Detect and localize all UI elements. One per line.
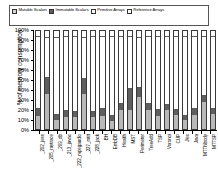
x-tick-label: Java	[194, 134, 199, 143]
x-tick-label: Voronoi	[167, 134, 172, 149]
bar-segment	[100, 37, 104, 109]
x-tick-label: _202_jess	[40, 134, 45, 154]
bar-segment	[137, 38, 141, 88]
x-tick-label: BH	[104, 134, 109, 140]
x-tick-label: Perimeter	[140, 134, 145, 153]
bar	[173, 30, 179, 130]
legend-item-reference-arrays: Reference Arrays	[127, 8, 164, 14]
bar	[164, 30, 170, 130]
bar-segment	[82, 79, 86, 94]
legend-label: Mutable Scalars	[19, 8, 48, 12]
bar-segment	[119, 37, 123, 104]
bar	[145, 30, 151, 130]
x-tick-label: _213_javac	[67, 134, 72, 157]
x-tick-label: CUP	[176, 134, 181, 143]
bar-segment	[202, 102, 206, 129]
bar-segment	[211, 114, 215, 129]
bar-segment	[165, 37, 169, 105]
bar-segment	[146, 110, 150, 129]
y-tick-label: 60%	[18, 67, 29, 73]
x-tick-label: TreeAdd	[149, 134, 154, 151]
bar-segment	[146, 37, 150, 104]
bar-segment	[54, 38, 58, 115]
bar	[63, 30, 69, 130]
bar-segment	[110, 121, 114, 129]
bar-segment	[156, 37, 160, 110]
legend-label: Primitive Arrays	[97, 8, 125, 12]
bar-segment	[183, 120, 187, 129]
bar-segment	[110, 37, 114, 116]
bar	[81, 30, 87, 130]
legend-label: Immutable Scalars	[56, 8, 89, 12]
bar-segment	[45, 94, 49, 129]
bar-segment	[36, 109, 40, 116]
bar-segment	[183, 37, 187, 116]
bar-segment	[64, 37, 68, 111]
bar-segment	[137, 31, 141, 38]
bar-segment	[36, 37, 40, 109]
bar-segment	[45, 31, 49, 38]
bar-segment	[128, 110, 132, 129]
x-tick-label: MTTSP	[212, 134, 217, 149]
bar	[127, 30, 133, 130]
bar-segment	[174, 115, 178, 129]
bar	[182, 30, 188, 130]
legend-swatch-icon	[49, 9, 54, 14]
legend-swatch-icon	[12, 9, 17, 14]
legend-swatch-icon	[91, 9, 96, 14]
bar-segment	[202, 37, 206, 97]
bar-segment	[119, 110, 123, 129]
bar	[90, 30, 96, 130]
legend-item-immutable-scalars: Immutable Scalars	[49, 8, 89, 14]
bar	[35, 30, 41, 130]
y-tick-label: 40%	[18, 87, 29, 93]
bar-segment	[54, 31, 58, 38]
bar-segment	[192, 115, 196, 129]
x-tick-label: MTTNbody	[203, 134, 208, 156]
bar-segment	[192, 37, 196, 109]
bar	[136, 30, 142, 130]
y-tick-label: 100%	[15, 27, 29, 33]
y-tick-label: 90%	[18, 37, 29, 43]
legend-swatch-icon	[127, 9, 132, 14]
x-tick-label: Jlex	[185, 134, 190, 142]
bar	[72, 30, 78, 130]
bar-segment	[36, 116, 40, 129]
bar-segment	[82, 94, 86, 129]
bar-segment	[174, 37, 178, 110]
bar-segment	[73, 117, 77, 129]
chart-figure: Mutable Scalars Immutable Scalars Primit…	[0, 0, 218, 193]
legend-label: Reference Arrays	[133, 8, 164, 12]
bar-segment	[165, 110, 169, 129]
bar-segment	[64, 117, 68, 129]
bar	[118, 30, 124, 130]
bar-segment	[100, 116, 104, 129]
legend-item-mutable-scalars: Mutable Scalars	[12, 8, 47, 14]
chart-legend: Mutable Scalars Immutable Scalars Primit…	[9, 5, 209, 26]
bar-group	[34, 30, 217, 130]
bar-segment	[137, 88, 141, 98]
bar-segment	[91, 37, 95, 112]
bar-segment	[211, 37, 215, 109]
bar-segment	[156, 116, 160, 129]
x-tick-label: _222_mpegaudio	[77, 134, 82, 168]
bar	[155, 30, 161, 130]
bar	[109, 30, 115, 130]
x-tick-label: TSP	[158, 134, 163, 143]
bar	[99, 30, 105, 130]
x-tick-label: _227_mtrt	[86, 134, 91, 154]
y-tick-label: 80%	[18, 47, 29, 53]
bar-segment	[128, 37, 132, 89]
y-tick-label: 50%	[18, 77, 29, 83]
bar-segment	[54, 120, 58, 129]
bar-segment	[73, 37, 77, 112]
x-tick-label: MST	[131, 134, 136, 143]
x-tick-label: Health	[122, 134, 127, 147]
x-axis-labels: _202_jess_205_raytrace_209_db_213_javac_…	[33, 134, 216, 192]
bar	[210, 30, 216, 130]
x-tick-label: EmbDB	[113, 134, 118, 149]
bar-segment	[137, 97, 141, 129]
y-tick-label: 70%	[18, 57, 29, 63]
plot-area	[33, 30, 217, 131]
bar-segment	[91, 117, 95, 129]
